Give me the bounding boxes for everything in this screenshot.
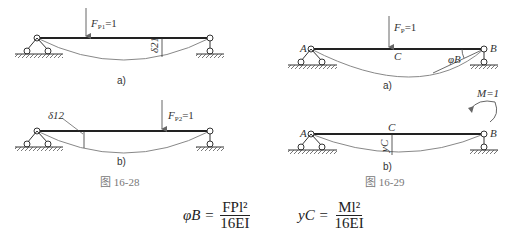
- moment-label: M=1: [476, 87, 499, 99]
- equation-phi-b: φB = FPl² 16EI: [183, 200, 252, 231]
- load-label: FP1=1: [90, 17, 117, 31]
- point-c-label: C: [388, 121, 396, 133]
- figure-caption: 图 16-28: [100, 176, 140, 188]
- point-c-label: C: [394, 50, 402, 62]
- deflection-label: δ12: [48, 109, 65, 121]
- subfigure-label: b): [117, 156, 126, 167]
- roller-support-icon: [207, 35, 213, 41]
- deflection-label: yC: [378, 139, 390, 153]
- rotation-label: φB: [448, 53, 461, 65]
- point-a-label: A: [299, 42, 307, 54]
- point-b-label: B: [490, 127, 497, 139]
- point-a-label: A: [299, 127, 307, 139]
- deflection-label: δ21: [148, 37, 160, 53]
- load-label: FP2=1: [167, 109, 194, 123]
- point-b-label: B: [490, 42, 497, 54]
- subfigure-label: b): [383, 161, 392, 172]
- moment-arc-icon: [470, 101, 497, 122]
- diagram-canvas: FP1=1 δ21 a) FP2=1 δ12 b) 图 16-28: [0, 0, 508, 236]
- load-label: FP=1: [393, 21, 416, 35]
- figure-caption: 图 16-29: [365, 176, 405, 188]
- equation-y-c: yC = Ml² 16EI: [298, 200, 366, 231]
- fig-16-28-b: [15, 100, 224, 153]
- fig-16-29-a: [288, 16, 498, 77]
- subfigure-label: a): [117, 75, 126, 86]
- fig-16-28-a: [15, 8, 224, 60]
- subfigure-label: a): [383, 80, 392, 91]
